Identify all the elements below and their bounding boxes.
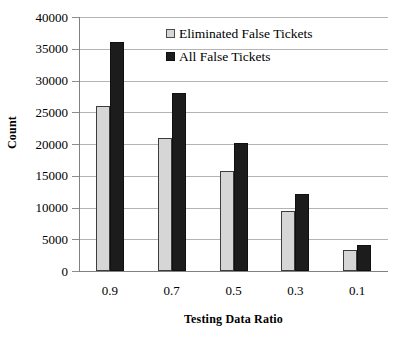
y-axis-tick-mark — [72, 271, 79, 272]
legend: Eliminated False Tickets All False Ticke… — [166, 22, 341, 68]
y-axis-tick-mark — [72, 17, 79, 18]
bar — [110, 42, 124, 271]
y-axis-tick-label: 35000 — [6, 42, 68, 55]
y-axis-tick-label: 25000 — [6, 106, 68, 119]
legend-swatch-icon-eliminated-false-tickets — [166, 29, 175, 38]
y-axis-tick-label: 15000 — [6, 169, 68, 182]
x-axis-tick-label: 0.1 — [332, 283, 382, 298]
y-axis-tick-mark — [72, 176, 79, 177]
x-axis-tick-label: 0.5 — [209, 283, 259, 298]
bar — [220, 171, 234, 271]
legend-item-eliminated-false-tickets: Eliminated False Tickets — [166, 22, 341, 45]
bar — [357, 245, 371, 271]
x-axis-tick-labels: 0.90.70.50.30.1 — [79, 283, 388, 303]
x-axis-title: Testing Data Ratio — [79, 312, 388, 327]
y-axis-tick-label: 10000 — [6, 201, 68, 214]
bar — [343, 250, 357, 271]
bar — [158, 138, 172, 271]
y-axis-tick-label: 40000 — [6, 11, 68, 24]
y-axis-tick-label: 30000 — [6, 74, 68, 87]
bar — [281, 211, 295, 271]
bar — [172, 93, 186, 271]
y-axis-tick-label: 20000 — [6, 138, 68, 151]
y-axis-tick-mark — [72, 144, 79, 145]
x-axis-tick-label: 0.9 — [85, 283, 135, 298]
x-axis-line — [72, 271, 388, 272]
legend-label-eliminated-false-tickets: Eliminated False Tickets — [179, 26, 313, 41]
bar — [96, 106, 110, 271]
x-axis-tick-label: 0.7 — [147, 283, 197, 298]
y-axis-tick-mark — [72, 208, 79, 209]
x-axis-tick-label: 0.3 — [270, 283, 320, 298]
y-axis-tick-label: 0 — [6, 265, 68, 278]
y-axis-tick-label: 5000 — [6, 233, 68, 246]
legend-swatch-icon-all-false-tickets — [166, 52, 175, 61]
y-axis-tick-mark — [72, 81, 79, 82]
bar — [234, 143, 248, 271]
legend-item-all-false-tickets: All False Tickets — [166, 45, 341, 68]
bar-chart-figure: Count 4000035000300002500020000150001000… — [0, 0, 399, 339]
bar — [295, 194, 309, 271]
y-axis-tick-mark — [72, 239, 79, 240]
y-axis-tick-labels: 4000035000300002500020000150001000050000 — [4, 0, 68, 339]
legend-label-all-false-tickets: All False Tickets — [179, 49, 271, 64]
y-axis-tick-mark — [72, 49, 79, 50]
y-axis-tick-mark — [72, 112, 79, 113]
